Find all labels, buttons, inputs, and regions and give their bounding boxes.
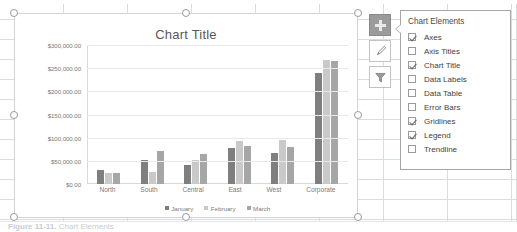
sheet-top-mask xyxy=(0,0,517,4)
flyout-title: Chart Elements xyxy=(401,11,510,30)
y-axis-tick-label: $200,000.00 xyxy=(48,88,81,95)
x-axis-tick-label: West xyxy=(266,186,281,198)
selection-handle-middle-right[interactable] xyxy=(354,111,362,119)
bar[interactable] xyxy=(105,173,112,184)
y-axis-tick-label: $50,000.00 xyxy=(51,157,81,164)
x-axis-tick-label: North xyxy=(99,186,115,198)
gridline xyxy=(87,138,348,139)
checkbox[interactable] xyxy=(408,145,416,153)
legend-label: March xyxy=(253,205,270,212)
chart-element-label: Error Bars xyxy=(424,103,460,112)
y-axis-tick-label: $150,000.00 xyxy=(48,111,81,118)
gridline xyxy=(87,161,348,162)
bar[interactable] xyxy=(236,141,243,184)
legend-swatch xyxy=(165,206,169,210)
chart-filters-button[interactable] xyxy=(369,66,391,88)
figure-number: Figure 11-11. xyxy=(8,222,56,231)
chart-element-label: Trendline xyxy=(424,145,457,154)
bar[interactable] xyxy=(287,147,294,184)
chart-elements-button[interactable] xyxy=(369,14,391,36)
x-axis-tick-label: East xyxy=(228,186,241,198)
chart-element-item[interactable]: Data Table xyxy=(401,86,510,100)
checkbox[interactable] xyxy=(408,89,416,97)
bar[interactable] xyxy=(149,172,156,184)
x-axis-tick-label: Corporate xyxy=(306,186,335,198)
bar[interactable] xyxy=(244,146,251,184)
x-axis-tick-label: South xyxy=(140,186,157,198)
chart-element-label: Data Labels xyxy=(424,75,467,84)
chart-element-item[interactable]: Chart Title xyxy=(401,58,510,72)
screenshot-root: Chart Title $300,000.00$250,000.00$200,0… xyxy=(0,0,517,232)
figure-caption-text: Chart Elements xyxy=(59,222,114,231)
x-axis-tick-label: Central xyxy=(182,186,203,198)
chart-object[interactable]: Chart Title $300,000.00$250,000.00$200,0… xyxy=(14,13,358,218)
checkbox[interactable] xyxy=(408,103,416,111)
selection-handle-bottom-left[interactable] xyxy=(10,213,18,221)
selection-handle-bottom-center[interactable] xyxy=(182,213,190,221)
funnel-icon xyxy=(374,71,387,84)
checkbox[interactable] xyxy=(408,47,416,55)
chart-title[interactable]: Chart Title xyxy=(15,27,357,42)
bar[interactable] xyxy=(331,61,338,184)
legend-label: February xyxy=(211,205,236,212)
selection-handle-top-center[interactable] xyxy=(182,9,190,17)
bar[interactable] xyxy=(279,140,286,184)
plus-icon xyxy=(375,20,386,31)
legend-label: January xyxy=(171,205,193,212)
flyout-pointer-inner xyxy=(396,25,401,33)
bar[interactable] xyxy=(271,153,278,185)
y-axis-tick-label: $0.00 xyxy=(66,181,81,188)
chart-element-item[interactable]: Error Bars xyxy=(401,100,510,114)
chart-element-item[interactable]: Trendline xyxy=(401,142,510,156)
paintbrush-icon xyxy=(374,45,387,58)
bar[interactable] xyxy=(192,160,199,184)
bar[interactable] xyxy=(323,60,330,184)
bar[interactable] xyxy=(184,165,191,184)
legend-item[interactable]: March xyxy=(247,205,271,212)
y-axis-labels: $300,000.00$250,000.00$200,000.00$150,00… xyxy=(15,45,85,184)
chart-element-item[interactable]: Data Labels xyxy=(401,72,510,86)
legend-swatch xyxy=(247,206,251,210)
chart-element-item[interactable]: Axis Titles xyxy=(401,44,510,58)
legend-item[interactable]: January xyxy=(165,205,194,212)
legend-item[interactable]: February xyxy=(204,205,235,212)
bar[interactable] xyxy=(113,173,120,184)
bar[interactable] xyxy=(315,73,322,184)
bar[interactable] xyxy=(97,170,104,184)
checkbox[interactable] xyxy=(408,61,416,69)
chart-element-item[interactable]: Gridlines xyxy=(401,114,510,128)
checkbox[interactable] xyxy=(408,131,416,139)
legend-swatch xyxy=(204,206,208,210)
chart-element-item[interactable]: Legend xyxy=(401,128,510,142)
x-axis-labels: NorthSouthCentralEastWestCorporate xyxy=(87,186,348,198)
chart-elements-flyout[interactable]: Chart Elements AxesAxis TitlesChart Titl… xyxy=(400,10,511,170)
chart-legend[interactable]: JanuaryFebruaryMarch xyxy=(87,202,348,214)
gridline xyxy=(87,45,348,46)
chart-side-buttons xyxy=(369,14,391,92)
y-axis-tick-label: $250,000.00 xyxy=(48,65,81,72)
chart-element-label: Axis Titles xyxy=(424,47,460,56)
bar[interactable] xyxy=(157,151,164,184)
gridline xyxy=(87,91,348,92)
chart-element-label: Axes xyxy=(424,33,442,42)
bar[interactable] xyxy=(228,148,235,184)
y-axis-tick-label: $300,000.00 xyxy=(48,42,81,49)
gridline xyxy=(87,68,348,69)
selection-handle-bottom-right[interactable] xyxy=(354,213,362,221)
checkbox[interactable] xyxy=(408,33,416,41)
bar[interactable] xyxy=(141,160,148,184)
chart-styles-button[interactable] xyxy=(369,40,391,62)
checkbox[interactable] xyxy=(408,75,416,83)
gridline xyxy=(87,115,348,116)
chart-element-item[interactable]: Axes xyxy=(401,30,510,44)
figure-caption: Figure 11-11. Chart Elements xyxy=(8,222,114,231)
chart-element-label: Legend xyxy=(424,131,451,140)
chart-elements-list: AxesAxis TitlesChart TitleData LabelsDat… xyxy=(401,30,510,156)
plot-area[interactable] xyxy=(87,45,348,184)
chart-element-label: Chart Title xyxy=(424,61,460,70)
checkbox[interactable] xyxy=(408,117,416,125)
bar[interactable] xyxy=(200,154,207,184)
selection-handle-middle-left[interactable] xyxy=(10,111,18,119)
selection-handle-top-right[interactable] xyxy=(354,9,362,17)
selection-handle-top-left[interactable] xyxy=(10,9,18,17)
